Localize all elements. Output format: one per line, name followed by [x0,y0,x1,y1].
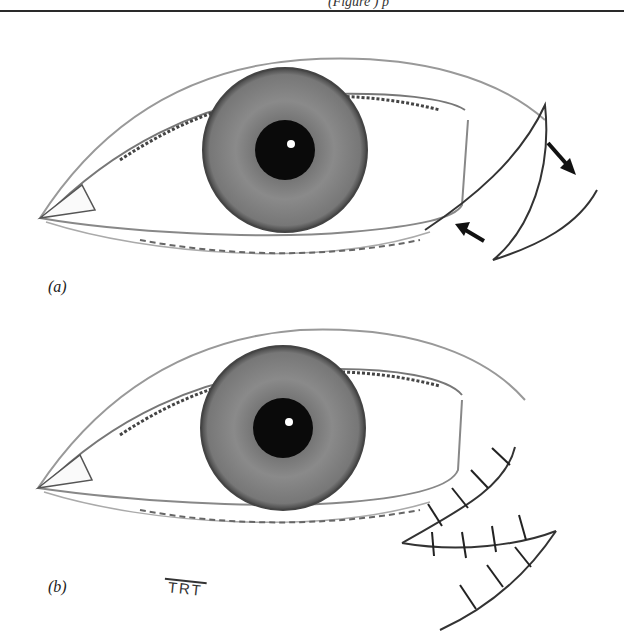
arrow-up-left-icon [455,222,484,241]
arrow-down-right-icon [548,143,576,175]
pupil-a [255,120,315,180]
pupil-b [253,398,313,458]
suture-marks [428,448,531,609]
eye-illustration-b [0,320,624,639]
eye-illustration-a [0,0,624,320]
illustrator-signature: TRT [167,578,203,599]
figure-panel-a: (a) [0,0,624,320]
figure-panel-b: (b) [0,320,624,639]
panel-a-label: (a) [48,278,67,296]
panel-b-label: (b) [48,578,67,596]
